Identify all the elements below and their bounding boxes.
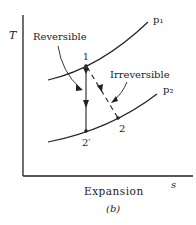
figure-caption: (b) (106, 203, 120, 214)
point-1-label: 1 (83, 52, 89, 62)
irreversible-annotation: Irreversible (110, 69, 170, 80)
isobar-p2-curve (48, 94, 157, 142)
isobar-p2-label: p₂ (163, 84, 173, 95)
reversible-annotation: Reversible (33, 31, 87, 42)
isobar-p1-label: p₁ (153, 14, 163, 25)
point-2-prime-label: 2′ (82, 137, 91, 148)
reversible-arrow-icon (83, 100, 89, 108)
reversible-leader-arrow-icon (76, 84, 83, 91)
y-axis-label: T (9, 29, 18, 42)
point-2 (116, 116, 120, 120)
point-2-prime (84, 129, 88, 133)
ts-diagram: T s p₁ p₂ 1 2 2′ Reversible Irreversible… (0, 0, 196, 225)
diagram-subtitle: Expansion (84, 185, 144, 197)
point-1 (84, 64, 88, 68)
point-2-label: 2 (119, 123, 125, 134)
reversible-leader (58, 46, 80, 88)
x-axis-label: s (171, 179, 176, 190)
